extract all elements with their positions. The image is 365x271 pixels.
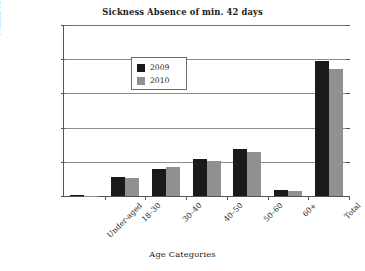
x-axis-tick bbox=[105, 196, 106, 200]
bar-2010-18–30 bbox=[125, 178, 139, 196]
bar-2010-60+ bbox=[288, 191, 302, 196]
bar-2009-18–30 bbox=[111, 177, 125, 196]
bar-group bbox=[315, 25, 343, 196]
x-axis-tick bbox=[186, 196, 187, 200]
bar-2010-Total bbox=[329, 69, 343, 196]
x-axis-tick bbox=[349, 196, 350, 200]
y-axis-title: Number of Cases bbox=[0, 0, 2, 36]
bar-2010-40–50 bbox=[207, 161, 221, 196]
y-axis-tick-right bbox=[346, 25, 350, 26]
bar-2009-40–50 bbox=[193, 159, 207, 196]
y-axis-tick bbox=[61, 162, 65, 163]
bar-group bbox=[70, 25, 98, 196]
bar-2010-50–60 bbox=[247, 152, 261, 196]
x-axis-label-18-30: 18–30 bbox=[140, 201, 163, 224]
bar-group bbox=[111, 25, 139, 196]
bar-2009-Under-aged bbox=[70, 195, 84, 196]
bar-group bbox=[193, 25, 221, 196]
legend-swatch-2010 bbox=[137, 77, 145, 85]
x-axis-tick bbox=[308, 196, 309, 200]
x-axis-label-30-40: 30–40 bbox=[181, 201, 204, 224]
y-axis-tick-right bbox=[346, 93, 350, 94]
y-axis-tick-right bbox=[346, 162, 350, 163]
chart-title: Sickness Absence of min. 42 days bbox=[0, 7, 365, 17]
legend-label-2009: 2009 bbox=[150, 64, 169, 72]
sickness-absence-bar-chart: Sickness Absence of min. 42 days Number … bbox=[0, 0, 365, 271]
legend-item-2010: 2010 bbox=[137, 75, 169, 86]
bar-group bbox=[274, 25, 302, 196]
x-axis-label-under-aged: Under-aged bbox=[106, 201, 145, 240]
y-axis-tick-right bbox=[346, 59, 350, 60]
bar-2009-50–60 bbox=[233, 149, 247, 196]
x-axis-label-total: Total bbox=[342, 201, 362, 221]
x-axis-tick bbox=[145, 196, 146, 200]
legend: 2009 2010 bbox=[131, 57, 187, 90]
legend-label-2010: 2010 bbox=[150, 77, 169, 85]
y-axis-tick bbox=[61, 196, 65, 197]
y-axis-tick-right bbox=[346, 128, 350, 129]
bar-2010-30–40 bbox=[166, 167, 180, 196]
bar-group bbox=[152, 25, 180, 196]
bar-2009-30–40 bbox=[152, 169, 166, 196]
x-axis-label-50-60: 50–60 bbox=[262, 201, 285, 224]
legend-swatch-2009 bbox=[137, 64, 145, 72]
y-axis-tick bbox=[61, 93, 65, 94]
bar-group bbox=[233, 25, 261, 196]
plot-area: 05001000150020002500 2009 2010 bbox=[63, 25, 348, 197]
bar-2009-60+ bbox=[274, 190, 288, 196]
x-axis-label-40-50: 40–50 bbox=[221, 201, 244, 224]
bar-2009-Total bbox=[315, 61, 329, 196]
y-axis-tick bbox=[61, 25, 65, 26]
x-axis-tick bbox=[268, 196, 269, 200]
x-axis-tick bbox=[227, 196, 228, 200]
x-axis-label-60: 60+ bbox=[301, 201, 319, 219]
x-axis-title: Age Categories bbox=[0, 249, 365, 259]
y-axis-tick bbox=[61, 59, 65, 60]
y-axis-tick bbox=[61, 128, 65, 129]
legend-item-2009: 2009 bbox=[137, 62, 169, 73]
